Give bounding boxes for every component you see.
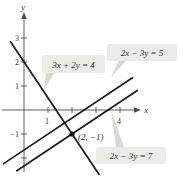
intersection-point-label: (2, −1): [78, 132, 104, 142]
x-tick-label-1: 1: [45, 117, 49, 126]
y-tick-label-3: 3: [15, 34, 19, 43]
equation-label-2x-minus-3y-equals-5: 2x − 3y = 5: [121, 48, 164, 58]
x-axis-label: x: [143, 105, 148, 115]
callout-pointer-line-c: [111, 110, 124, 147]
equation-label-3x-plus-2y-equals-4: 3x + 2y = 4: [51, 60, 95, 70]
y-tick-label-2: 2: [15, 58, 19, 67]
linear-system-graph: x y 1 4 3 2 1 −1 3x + 2y = 4 2x − 3y = 5…: [0, 0, 183, 186]
equation-label-2x-minus-3y-equals-7: 2x − 3y = 7: [110, 151, 153, 161]
callout-pointer-line-a: [44, 72, 55, 90]
x-tick-label-4: 4: [117, 117, 121, 126]
y-axis-label: y: [20, 2, 25, 12]
y-tick-label-1: 1: [15, 82, 19, 91]
callout-pointer-line-b: [111, 60, 127, 77]
y-tick-label-minus-1: −1: [10, 130, 19, 139]
intersection-point: [69, 131, 74, 136]
y-axis-arrow-icon: [21, 12, 27, 19]
graph-canvas: x y 1 4 3 2 1 −1 3x + 2y = 4 2x − 3y = 5…: [0, 0, 183, 186]
x-axis-arrow-icon: [134, 107, 141, 113]
